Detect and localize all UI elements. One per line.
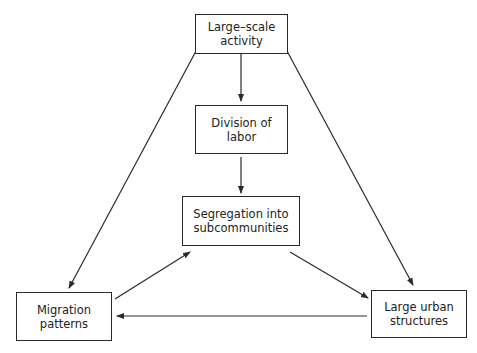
diagram-canvas: Large–scale activity Division of labor S… — [0, 0, 477, 353]
node-migration-patterns: Migration patterns — [16, 292, 112, 341]
edge-activity-to-urban — [280, 38, 413, 285]
edge-segregation-to-urban — [290, 252, 368, 298]
edge-activity-to-migration — [69, 38, 203, 288]
node-large-scale-activity: Large–scale activity — [195, 14, 288, 54]
node-label: Segregation into subcommunities — [193, 207, 288, 235]
node-label: Large urban structures — [384, 300, 454, 328]
node-label: Division of labor — [211, 116, 271, 144]
edge-migration-to-segregation — [115, 252, 190, 299]
node-label: Migration patterns — [37, 303, 91, 331]
node-large-urban-structures: Large urban structures — [371, 290, 467, 338]
node-label: Large–scale activity — [208, 20, 276, 48]
node-division-of-labor: Division of labor — [195, 105, 288, 154]
node-segregation-into-subcommunities: Segregation into subcommunities — [182, 196, 300, 246]
